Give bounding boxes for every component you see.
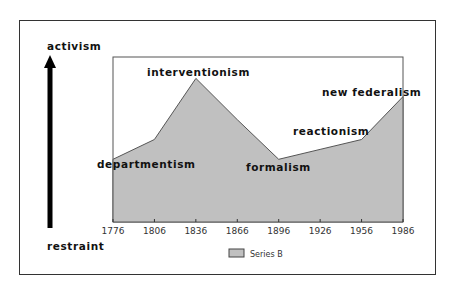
x-tick-label: 1806: [143, 226, 166, 236]
legend-swatch: [229, 249, 244, 257]
x-tick-label: 1776: [102, 226, 125, 236]
annotation-reactionism: reactionism: [293, 125, 369, 137]
legend-label: Series B: [250, 250, 283, 259]
x-tick-label: 1836: [184, 226, 207, 236]
annotation-formalism: formalism: [246, 161, 311, 173]
chart-svg: activism restraint 177618061836186618961…: [0, 0, 455, 291]
x-tick-label: 1896: [267, 226, 290, 236]
x-tick-label: 1866: [226, 226, 249, 236]
x-tick-label: 1956: [350, 226, 373, 236]
annotation-new-federalism: new federalism: [322, 86, 421, 98]
annotation-departmentism: departmentism: [97, 158, 196, 170]
x-tick-label: 1986: [392, 226, 415, 236]
x-tick-label: 1926: [309, 226, 332, 236]
activism-restraint-arrow-icon: [44, 55, 56, 228]
x-axis-tick-labels: 17761806183618661896192619561986: [102, 226, 415, 236]
y-axis-top-label: activism: [47, 40, 101, 52]
y-axis-bottom-label: restraint: [47, 240, 104, 252]
annotation-interventionism: interventionism: [147, 66, 250, 78]
